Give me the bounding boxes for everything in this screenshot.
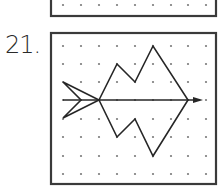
grid-box-border <box>51 33 216 184</box>
grid-dot <box>187 136 189 138</box>
grid-dot <box>152 81 154 83</box>
grid-dot <box>187 173 189 175</box>
grid-dot <box>152 136 154 138</box>
grid-dot <box>170 81 172 83</box>
grid-dot <box>98 155 100 157</box>
grid-dot <box>205 45 207 47</box>
grid-dot <box>152 173 154 175</box>
grid-dot <box>98 136 100 138</box>
grid-dot <box>170 63 172 65</box>
grid-dot <box>62 45 64 47</box>
grid-dot <box>98 118 100 120</box>
grid-dot <box>187 118 189 120</box>
grid-dot <box>170 118 172 120</box>
grid-dot <box>170 136 172 138</box>
grid-dot <box>116 81 118 83</box>
grid-dot <box>205 136 207 138</box>
grid-dot <box>205 4 207 6</box>
grid-dot <box>187 63 189 65</box>
grid-dot <box>80 155 82 157</box>
grid-dot <box>170 4 172 6</box>
grid-dot <box>80 45 82 47</box>
grid-dot <box>98 81 100 83</box>
grid-dot <box>116 118 118 120</box>
grid-dot <box>62 155 64 157</box>
grid-dot <box>80 118 82 120</box>
grid-dot <box>152 118 154 120</box>
grid-dot <box>205 63 207 65</box>
grid-dot <box>170 173 172 175</box>
grid-dot <box>205 81 207 83</box>
grid-box-border <box>51 0 216 16</box>
grid-dot <box>134 63 136 65</box>
grid-dot <box>152 63 154 65</box>
grid-dot <box>205 99 207 101</box>
previous-problem-dot-grid-box <box>51 0 216 16</box>
symmetric-shape-outline <box>99 46 188 156</box>
grid-dot <box>80 81 82 83</box>
grid-dot <box>116 155 118 157</box>
grid-dot <box>187 4 189 6</box>
grid-dot <box>116 4 118 6</box>
problem-21-dot-grid-box <box>51 33 216 184</box>
grid-dot <box>170 155 172 157</box>
grid-dot <box>98 45 100 47</box>
grid-dot <box>187 155 189 157</box>
grid-dot <box>134 155 136 157</box>
grid-dot <box>187 81 189 83</box>
grid-dot <box>152 4 154 6</box>
grid-dot <box>80 136 82 138</box>
grid-dot <box>80 4 82 6</box>
grid-dot <box>80 63 82 65</box>
grid-dot <box>98 173 100 175</box>
grid-dot <box>134 136 136 138</box>
grid-dot <box>62 63 64 65</box>
grid-dot <box>170 45 172 47</box>
grid-dot <box>116 173 118 175</box>
grid-dot <box>187 45 189 47</box>
grid-dot <box>116 45 118 47</box>
grid-dot <box>205 155 207 157</box>
grid-dot <box>80 173 82 175</box>
grid-dot <box>62 136 64 138</box>
grid-dot <box>62 4 64 6</box>
grid-dot <box>98 4 100 6</box>
arrowhead-icon <box>193 97 203 103</box>
grid-dot <box>134 4 136 6</box>
grid-dot <box>205 118 207 120</box>
grid-dot <box>134 173 136 175</box>
grid-dot <box>205 173 207 175</box>
dot-grid-symmetry-figures <box>0 0 220 187</box>
grid-dot <box>62 173 64 175</box>
grid-dot <box>98 63 100 65</box>
grid-dot <box>134 45 136 47</box>
